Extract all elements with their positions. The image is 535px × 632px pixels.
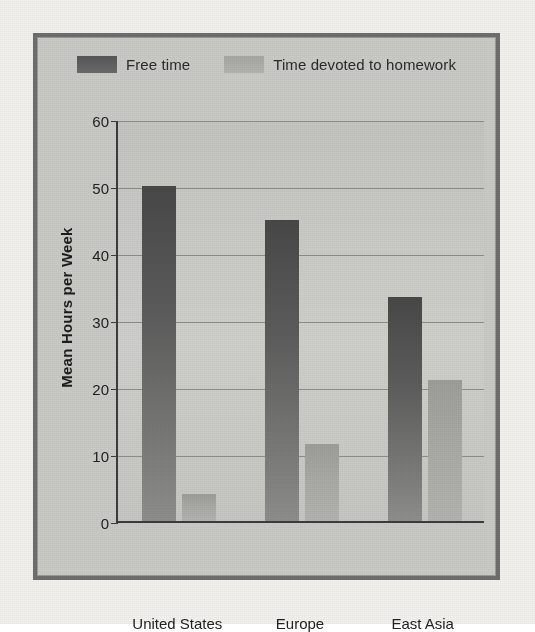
- bar: [305, 444, 339, 521]
- homework-swatch: [224, 56, 264, 73]
- free-time-swatch: [77, 56, 117, 73]
- category-label: United States: [132, 615, 222, 632]
- category-label: Europe: [276, 615, 324, 632]
- y-axis-title: Mean Hours per Week: [58, 193, 75, 423]
- y-tick-label: 40: [92, 247, 109, 264]
- y-tick-mark: [111, 255, 118, 256]
- y-tick-mark: [111, 322, 118, 323]
- bar-group: [265, 121, 339, 521]
- plot-wrapper: 0102030405060 United StatesEuropeEast As…: [116, 121, 484, 523]
- bar-group: [142, 121, 216, 521]
- bar-series-container: [118, 121, 484, 521]
- y-tick-mark: [111, 389, 118, 390]
- legend-item: Time devoted to homework: [224, 56, 456, 73]
- bar: [142, 186, 176, 521]
- legend-label: Free time: [126, 56, 190, 73]
- bar: [265, 220, 299, 522]
- y-tick-label: 60: [92, 113, 109, 130]
- figure-frame: Free timeTime devoted to homework Mean H…: [33, 33, 500, 580]
- y-tick-label: 30: [92, 314, 109, 331]
- plot-area: 0102030405060: [116, 121, 484, 523]
- bar-group: [388, 121, 462, 521]
- y-tick-label: 20: [92, 381, 109, 398]
- category-label: East Asia: [391, 615, 454, 632]
- y-tick-mark: [111, 456, 118, 457]
- y-tick-mark: [111, 121, 118, 122]
- legend-label: Time devoted to homework: [273, 56, 456, 73]
- bar: [428, 380, 462, 521]
- chart-legend: Free timeTime devoted to homework: [37, 56, 496, 73]
- y-tick-mark: [111, 523, 118, 524]
- legend-item: Free time: [77, 56, 190, 73]
- y-tick-label: 0: [101, 515, 109, 532]
- bar: [182, 494, 216, 521]
- y-tick-label: 10: [92, 448, 109, 465]
- bar: [388, 297, 422, 521]
- y-tick-label: 50: [92, 180, 109, 197]
- y-tick-mark: [111, 188, 118, 189]
